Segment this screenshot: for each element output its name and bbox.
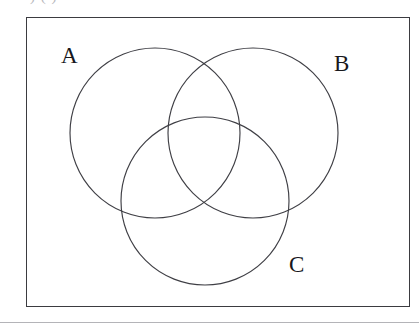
footer-rule <box>0 322 419 323</box>
figure-border <box>26 17 410 307</box>
set-label-b: B <box>334 52 349 75</box>
clipped-header-text: ) ( ) <box>0 0 419 5</box>
set-label-a: A <box>61 44 78 67</box>
venn-diagram-page: ) ( ) A B C <box>0 0 419 330</box>
set-label-c: C <box>289 253 304 276</box>
